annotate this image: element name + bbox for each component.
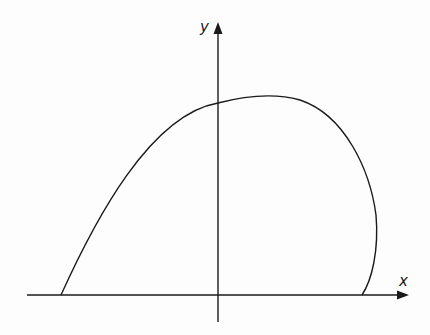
x-axis-arrow-icon bbox=[397, 291, 409, 300]
y-axis-label: y bbox=[200, 18, 209, 36]
y-axis-arrow-icon bbox=[214, 22, 223, 34]
curve bbox=[61, 96, 377, 295]
axes-and-curve bbox=[0, 0, 430, 335]
x-axis-label: x bbox=[399, 272, 408, 290]
diagram-canvas: y x bbox=[0, 0, 430, 335]
